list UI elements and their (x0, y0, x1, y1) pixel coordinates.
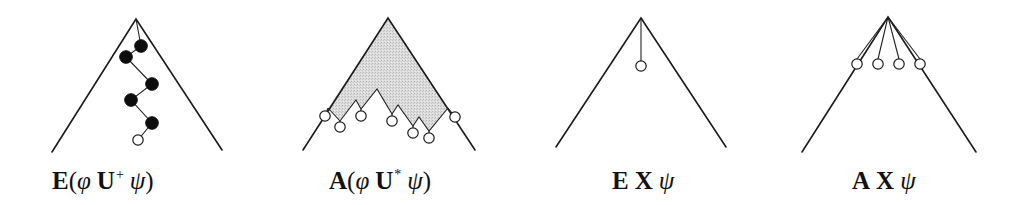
edge (888, 17, 899, 59)
tree-outline (52, 19, 222, 152)
right-var: ψ (900, 167, 916, 194)
successor-nodes (636, 61, 646, 71)
open-node (852, 59, 862, 69)
open-paren: ( (69, 167, 77, 194)
close-paren: ) (423, 167, 431, 194)
edge (888, 17, 920, 59)
tree-au-star (303, 18, 475, 150)
filled-node (146, 78, 159, 91)
until-operator: U (97, 167, 115, 194)
open-node (387, 116, 397, 126)
filled-node (125, 94, 138, 107)
right-var: ψ (130, 167, 146, 194)
open-node (424, 133, 434, 143)
right-var: ψ (659, 167, 675, 194)
open-node (320, 111, 330, 121)
tree-outline (802, 17, 976, 152)
open-node (915, 59, 925, 69)
quantifier: A (852, 167, 870, 194)
filled-node (135, 40, 148, 53)
label-ex: EXψ (612, 168, 674, 193)
close-paren: ) (145, 167, 153, 194)
next-operator: X (635, 167, 653, 194)
open-node (356, 111, 366, 121)
superscript: * (394, 167, 401, 182)
superscript: + (116, 167, 124, 182)
quantifier: E (52, 167, 69, 194)
tree-ax (802, 17, 976, 152)
open-node (894, 59, 904, 69)
label-ax: AXψ (852, 168, 916, 193)
successor-nodes (852, 59, 925, 69)
path-nodes (120, 40, 159, 146)
label-eu-plus: E(φU+ψ) (52, 168, 154, 193)
until-operator: U (375, 167, 393, 194)
left-var: φ (77, 167, 91, 194)
tree-ex (556, 18, 726, 147)
tree-eu-plus (52, 19, 222, 152)
right-var: ψ (407, 167, 423, 194)
quantifier: A (329, 167, 347, 194)
filled-node (146, 117, 159, 130)
next-operator: X (876, 167, 894, 194)
open-node (873, 59, 883, 69)
left-var: φ (355, 167, 369, 194)
shaded-region (328, 18, 448, 131)
open-node (636, 61, 646, 71)
open-node (335, 122, 345, 132)
filled-node (120, 51, 133, 64)
open-node (408, 128, 418, 138)
open-node (450, 112, 460, 122)
quantifier: E (612, 167, 629, 194)
label-au-star: A(φU*ψ) (329, 168, 431, 193)
open-node (133, 135, 143, 145)
